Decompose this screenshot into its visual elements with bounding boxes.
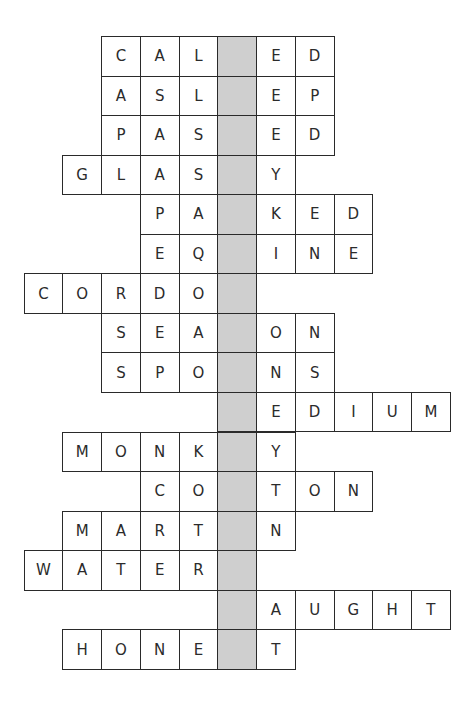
letter-cell[interactable]: L bbox=[101, 155, 141, 196]
letter-cell[interactable]: O bbox=[179, 471, 219, 512]
letter-cell[interactable]: I bbox=[256, 234, 296, 275]
letter-cell[interactable]: Y bbox=[256, 155, 296, 196]
letter-cell[interactable]: W bbox=[24, 550, 64, 591]
letter-cell[interactable]: N bbox=[295, 313, 335, 354]
letter-cell[interactable]: C bbox=[24, 273, 64, 314]
blank-shaded-cell[interactable] bbox=[217, 392, 257, 433]
blank-shaded-cell[interactable] bbox=[217, 313, 257, 354]
letter-cell[interactable]: R bbox=[101, 273, 141, 314]
blank-shaded-cell[interactable] bbox=[217, 155, 257, 196]
letter-cell[interactable]: Y bbox=[256, 432, 296, 473]
letter-cell[interactable]: S bbox=[179, 115, 219, 156]
letter-cell[interactable]: L bbox=[179, 76, 219, 117]
blank-shaded-cell[interactable] bbox=[217, 76, 257, 117]
letter-cell[interactable]: R bbox=[140, 511, 180, 552]
letter-cell[interactable]: P bbox=[101, 115, 141, 156]
blank-shaded-cell[interactable] bbox=[217, 629, 257, 670]
letter-cell[interactable]: E bbox=[256, 115, 296, 156]
letter-cell[interactable]: Q bbox=[179, 234, 219, 275]
blank-shaded-cell[interactable] bbox=[217, 511, 257, 552]
letter-cell[interactable]: D bbox=[295, 392, 335, 433]
letter-cell[interactable]: E bbox=[140, 550, 180, 591]
letter-cell[interactable]: A bbox=[140, 115, 180, 156]
letter-cell[interactable]: A bbox=[101, 511, 141, 552]
letter-cell[interactable]: N bbox=[295, 234, 335, 275]
letter-cell[interactable]: D bbox=[334, 194, 374, 235]
blank-shaded-cell[interactable] bbox=[217, 471, 257, 512]
letter-cell[interactable]: E bbox=[256, 76, 296, 117]
blank-shaded-cell[interactable] bbox=[217, 590, 257, 631]
letter-cell[interactable]: P bbox=[140, 352, 180, 393]
letter-cell[interactable]: U bbox=[295, 590, 335, 631]
letter-cell[interactable]: D bbox=[295, 36, 335, 77]
letter-cell[interactable]: E bbox=[179, 629, 219, 670]
letter-cell[interactable]: N bbox=[256, 352, 296, 393]
letter-cell[interactable]: G bbox=[62, 155, 102, 196]
letter-cell[interactable]: K bbox=[256, 194, 296, 235]
letter-cell[interactable]: A bbox=[140, 36, 180, 77]
blank-shaded-cell[interactable] bbox=[217, 115, 257, 156]
letter-cell[interactable]: S bbox=[295, 352, 335, 393]
letter-cell[interactable]: A bbox=[179, 194, 219, 235]
letter-cell[interactable]: A bbox=[101, 76, 141, 117]
blank-shaded-cell[interactable] bbox=[217, 194, 257, 235]
blank-shaded-cell[interactable] bbox=[217, 352, 257, 393]
letter-cell[interactable]: D bbox=[140, 273, 180, 314]
letter-cell[interactable]: T bbox=[101, 550, 141, 591]
letter-cell[interactable]: M bbox=[62, 432, 102, 473]
letter-cell[interactable]: S bbox=[101, 313, 141, 354]
letter-cell[interactable]: N bbox=[140, 629, 180, 670]
letter-cell[interactable]: O bbox=[179, 352, 219, 393]
letter-cell[interactable]: H bbox=[372, 590, 412, 631]
letter-cell[interactable]: M bbox=[411, 392, 451, 433]
crossword-grid: CALEDASLEPPASEDGLASYPAKEDEQINECORDOSEAON… bbox=[0, 0, 473, 704]
letter-cell[interactable]: R bbox=[179, 550, 219, 591]
letter-cell[interactable]: C bbox=[101, 36, 141, 77]
letter-cell[interactable]: L bbox=[179, 36, 219, 77]
blank-shaded-cell[interactable] bbox=[217, 273, 257, 314]
letter-cell[interactable]: E bbox=[334, 234, 374, 275]
letter-cell[interactable]: N bbox=[140, 432, 180, 473]
letter-cell[interactable]: S bbox=[140, 76, 180, 117]
letter-cell[interactable]: D bbox=[295, 115, 335, 156]
letter-cell[interactable]: E bbox=[140, 313, 180, 354]
letter-cell[interactable]: T bbox=[256, 629, 296, 670]
letter-cell[interactable]: O bbox=[101, 432, 141, 473]
letter-cell[interactable]: N bbox=[256, 511, 296, 552]
letter-cell[interactable]: A bbox=[62, 550, 102, 591]
letter-cell[interactable]: O bbox=[295, 471, 335, 512]
letter-cell[interactable]: N bbox=[334, 471, 374, 512]
letter-cell[interactable]: T bbox=[179, 511, 219, 552]
letter-cell[interactable]: I bbox=[334, 392, 374, 433]
letter-cell[interactable]: O bbox=[179, 273, 219, 314]
blank-shaded-cell[interactable] bbox=[217, 36, 257, 77]
letter-cell[interactable]: A bbox=[179, 313, 219, 354]
letter-cell[interactable]: S bbox=[101, 352, 141, 393]
letter-cell[interactable]: E bbox=[140, 234, 180, 275]
letter-cell[interactable]: U bbox=[372, 392, 412, 433]
letter-cell[interactable]: E bbox=[256, 36, 296, 77]
blank-shaded-cell[interactable] bbox=[217, 234, 257, 275]
letter-cell[interactable]: A bbox=[140, 155, 180, 196]
blank-shaded-cell[interactable] bbox=[217, 432, 257, 473]
letter-cell[interactable]: O bbox=[62, 273, 102, 314]
letter-cell[interactable]: O bbox=[256, 313, 296, 354]
letter-cell[interactable]: T bbox=[411, 590, 451, 631]
letter-cell[interactable]: K bbox=[179, 432, 219, 473]
letter-cell[interactable]: M bbox=[62, 511, 102, 552]
letter-cell[interactable]: G bbox=[334, 590, 374, 631]
blank-shaded-cell[interactable] bbox=[217, 550, 257, 591]
letter-cell[interactable]: T bbox=[256, 471, 296, 512]
letter-cell[interactable]: O bbox=[101, 629, 141, 670]
letter-cell[interactable]: P bbox=[295, 76, 335, 117]
letter-cell[interactable]: P bbox=[140, 194, 180, 235]
letter-cell[interactable]: S bbox=[179, 155, 219, 196]
letter-cell[interactable]: E bbox=[256, 392, 296, 433]
letter-cell[interactable]: C bbox=[140, 471, 180, 512]
letter-cell[interactable]: E bbox=[295, 194, 335, 235]
letter-cell[interactable]: A bbox=[256, 590, 296, 631]
letter-cell[interactable]: H bbox=[62, 629, 102, 670]
